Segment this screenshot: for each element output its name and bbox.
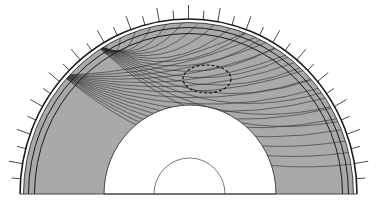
tick-mark-icon [17, 129, 30, 134]
tick-mark-icon [17, 146, 26, 148]
tick-mark-icon [12, 178, 21, 179]
tick-mark-icon [246, 16, 251, 29]
tick-mark-icon [126, 16, 131, 29]
diagram-canvas [0, 0, 377, 206]
tick-mark-icon [347, 129, 360, 134]
tick-mark-icon [49, 73, 60, 82]
tick-mark-icon [30, 100, 42, 107]
tick-mark-icon [28, 116, 36, 120]
tick-mark-icon [9, 161, 23, 163]
tick-mark-icon [203, 11, 204, 20]
earth-cross-section-diagram [0, 0, 377, 206]
tick-mark-icon [260, 27, 264, 35]
tick-mark-icon [285, 43, 290, 50]
tick-mark-icon [143, 16, 145, 25]
tick-mark-icon [87, 43, 92, 50]
tick-mark-icon [218, 8, 220, 22]
tick-mark-icon [327, 88, 334, 93]
tick-mark-icon [297, 49, 306, 60]
tick-mark-icon [43, 88, 50, 93]
tick-mark-icon [97, 30, 104, 42]
tick-mark-icon [232, 16, 234, 25]
tick-mark-icon [173, 11, 174, 20]
tick-mark-icon [354, 161, 368, 163]
tick-mark-icon [334, 100, 346, 107]
tick-mark-icon [318, 73, 329, 82]
tick-mark-icon [63, 64, 69, 70]
tick-mark-icon [71, 49, 80, 60]
tick-mark-icon [157, 8, 159, 22]
tick-mark-icon [351, 146, 360, 148]
tick-mark-icon [273, 30, 280, 42]
tick-mark-icon [113, 27, 117, 35]
tick-mark-icon [356, 178, 365, 179]
tick-mark-icon [341, 116, 349, 120]
tick-mark-icon [308, 64, 314, 70]
